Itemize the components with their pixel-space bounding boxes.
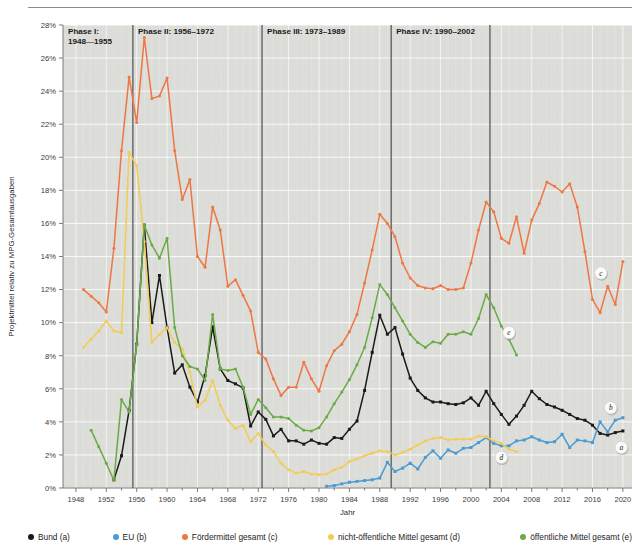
data-point-a xyxy=(181,363,184,366)
data-point-d xyxy=(135,164,138,167)
data-point-c xyxy=(150,97,153,100)
data-point-c xyxy=(120,149,123,152)
data-point-a xyxy=(621,429,624,432)
data-point-d xyxy=(310,472,313,475)
y-axis-tick-label: 10% xyxy=(41,318,56,327)
data-point-c xyxy=(545,181,548,184)
data-point-a xyxy=(287,439,290,442)
data-point-a xyxy=(477,404,480,407)
data-point-e xyxy=(340,391,343,394)
data-point-e xyxy=(234,367,237,370)
data-point-a xyxy=(591,424,594,427)
x-axis-title: Jahr xyxy=(340,508,356,517)
data-point-c xyxy=(447,288,450,291)
data-point-c xyxy=(135,121,138,124)
legend-swatch-icon xyxy=(520,534,526,540)
data-point-e xyxy=(226,369,229,372)
phase-label: Phase III: 1973–1989 xyxy=(267,27,346,36)
legend-eu[interactable]: EU (b) xyxy=(113,532,182,542)
data-point-b xyxy=(454,452,457,455)
data-point-b xyxy=(393,470,396,473)
data-point-a xyxy=(583,419,586,422)
data-point-b xyxy=(591,441,594,444)
data-point-d xyxy=(128,151,131,154)
data-point-d xyxy=(469,438,472,441)
x-axis-tick-label: 1960 xyxy=(159,495,176,504)
y-axis-tick-label: 4% xyxy=(45,418,56,427)
data-point-b xyxy=(523,439,526,442)
data-point-a xyxy=(424,396,427,399)
data-point-d xyxy=(219,404,222,407)
y-axis-tick-label: 12% xyxy=(41,285,56,294)
data-point-e xyxy=(264,406,267,409)
legend-label: EU (b) xyxy=(123,532,147,542)
data-point-d xyxy=(257,432,260,435)
x-axis-tick-label: 2020 xyxy=(614,495,631,504)
data-point-a xyxy=(606,434,609,437)
badge-label: a xyxy=(620,443,624,452)
data-point-a xyxy=(386,333,389,336)
data-point-e xyxy=(454,333,457,336)
phase-label: 1948—1955 xyxy=(68,37,113,46)
data-point-c xyxy=(181,198,184,201)
data-point-e xyxy=(424,346,427,349)
data-point-c xyxy=(454,288,457,291)
x-axis-tick-label: 1968 xyxy=(219,495,236,504)
x-axis-tick-label: 2008 xyxy=(523,495,540,504)
data-point-e xyxy=(181,354,184,357)
data-point-c xyxy=(409,276,412,279)
data-point-a xyxy=(333,436,336,439)
data-point-d xyxy=(318,473,321,476)
data-point-a xyxy=(568,413,571,416)
data-point-b xyxy=(371,478,374,481)
data-point-e xyxy=(295,424,298,427)
data-point-c xyxy=(599,311,602,314)
data-point-d xyxy=(431,437,434,440)
data-point-e xyxy=(257,398,260,401)
data-point-d xyxy=(485,435,488,438)
data-point-b xyxy=(583,439,586,442)
data-point-c xyxy=(606,285,609,288)
data-point-d xyxy=(166,326,169,329)
data-point-b xyxy=(348,481,351,484)
legend-label: öffentliche Mittel gesamt (e) xyxy=(530,532,632,542)
data-point-d xyxy=(272,450,275,453)
data-point-d xyxy=(325,472,328,475)
data-point-a xyxy=(355,420,358,423)
data-point-a xyxy=(599,432,602,435)
x-axis-tick-label: 1980 xyxy=(311,495,328,504)
data-point-a xyxy=(576,417,579,420)
x-axis-tick-label: 1972 xyxy=(250,495,267,504)
data-point-d xyxy=(500,442,503,445)
data-point-c xyxy=(401,262,404,265)
data-point-d xyxy=(112,329,115,332)
data-point-b xyxy=(439,457,442,460)
data-point-d xyxy=(120,331,123,334)
data-point-d xyxy=(173,341,176,344)
legend-bund[interactable]: Bund (a) xyxy=(28,532,113,542)
data-point-e xyxy=(280,415,283,418)
data-point-c xyxy=(196,255,199,258)
data-point-e xyxy=(302,429,305,432)
x-axis-tick-label: 2012 xyxy=(554,495,571,504)
data-point-e xyxy=(204,379,207,382)
data-point-e xyxy=(188,365,191,368)
data-point-e xyxy=(166,237,169,240)
data-point-c xyxy=(416,284,419,287)
y-axis-tick-label: 14% xyxy=(41,252,56,261)
data-point-d xyxy=(401,451,404,454)
data-point-a xyxy=(249,424,252,427)
data-point-c xyxy=(355,313,358,316)
data-point-b xyxy=(462,447,465,450)
x-axis-tick-label: 1952 xyxy=(98,495,115,504)
data-point-c xyxy=(310,377,313,380)
data-point-b xyxy=(378,477,381,480)
data-point-a xyxy=(158,274,161,277)
data-point-c xyxy=(158,95,161,98)
data-point-c xyxy=(264,358,267,361)
legend-foerdermittel[interactable]: Fördermittel gesamt (c) xyxy=(182,532,328,542)
data-point-c xyxy=(378,213,381,216)
legend-oeffentlich[interactable]: öffentliche Mittel gesamt (e) xyxy=(520,532,632,542)
legend-nicht-oeffentlich[interactable]: nicht-öffentliche Mittel gesamt (d) xyxy=(328,532,520,542)
data-point-e xyxy=(143,224,146,227)
